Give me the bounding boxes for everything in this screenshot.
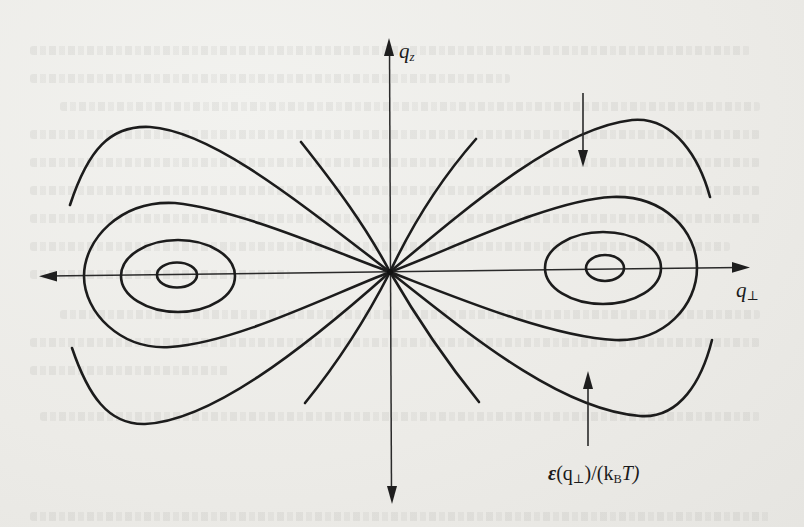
annotation-kb-sub: B: [613, 472, 621, 486]
qz-down-arrowhead-icon: [387, 486, 397, 504]
qperp-right-arrowhead-icon: [732, 262, 750, 273]
qperp-label-sub: ⊥: [747, 288, 759, 303]
contour-diagram: [0, 0, 804, 527]
qperp-left-arrowhead-icon: [39, 271, 57, 282]
annotation-arg-open: (q: [556, 462, 573, 484]
radial-upper-left: [301, 142, 390, 272]
radial-upper-right: [390, 139, 476, 272]
qz-label-sub: z: [410, 49, 415, 64]
outer-lobe-upper-left: [70, 127, 390, 272]
qperp-label-main: q: [736, 278, 747, 302]
radial-lower-left: [305, 272, 390, 403]
up-pointer-arrowhead-icon: [583, 371, 593, 389]
qz-label-main: q: [399, 39, 410, 63]
origin-point: [387, 269, 393, 275]
annotation-arg-close: )/(k: [585, 462, 614, 484]
annotation-arg-sub: ⊥: [573, 472, 585, 486]
energy-annotation-label: ε(q⊥)/(kBT): [548, 462, 639, 487]
outer-lobe-lower-left: [72, 272, 390, 424]
annotation-tail: T): [622, 462, 640, 484]
middle-ellipse-left: [121, 240, 235, 312]
outer-lobe-upper-right: [390, 120, 710, 272]
qz-up-arrowhead-icon: [384, 38, 394, 56]
qz-axis-label: qz: [399, 39, 415, 65]
epsilon-symbol: ε: [548, 462, 556, 484]
inner-ellipse-right: [586, 255, 624, 281]
outer-lobe-lower-right: [390, 272, 712, 416]
down-pointer-arrowhead-icon: [578, 150, 588, 167]
radial-lower-right: [390, 272, 479, 402]
qperp-axis-label: q⊥: [736, 278, 759, 304]
figure-page: qz q⊥ ε(q⊥)/(kBT): [0, 0, 804, 527]
